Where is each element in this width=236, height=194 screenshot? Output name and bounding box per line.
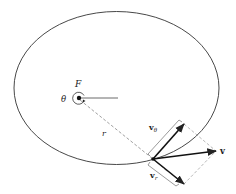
angle-arc-arrowhead: [83, 100, 86, 103]
orbit-diagram: F θ r v vθ vr: [0, 0, 236, 194]
focus-point: [77, 96, 81, 100]
v-r-subscript: r: [155, 175, 158, 181]
construction-line-2: [184, 151, 216, 184]
construction-line-1: [184, 124, 216, 151]
radius-label: r: [102, 129, 107, 138]
v-arrow: [153, 151, 216, 159]
theta-label: θ: [61, 94, 66, 104]
velocity-label: v: [219, 146, 226, 156]
radius-dashed-line: [80, 100, 153, 159]
orbit-ellipse: [14, 12, 219, 165]
v-theta-label: vθ: [148, 122, 158, 133]
focus-label: F: [74, 79, 82, 89]
v-theta-subscript: θ: [154, 127, 158, 133]
particle-point: [151, 157, 155, 161]
v-r-label: vr: [149, 170, 158, 181]
